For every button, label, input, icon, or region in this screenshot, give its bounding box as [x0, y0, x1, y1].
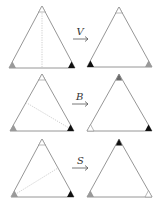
corner-marker-bottom-right-black: [67, 191, 74, 198]
row-b: B: [10, 74, 152, 131]
triangle-outline: [9, 6, 75, 68]
corner-marker-top-white: [39, 6, 45, 12]
corner-marker-bottom-right-black: [145, 125, 152, 132]
corner-marker-bottom-left-black: [87, 61, 94, 68]
operation-label-v: V: [77, 26, 86, 37]
corner-marker-bottom-right-white: [145, 191, 152, 198]
corner-marker-top-white: [39, 74, 45, 80]
triangle-outline: [87, 139, 152, 197]
triangle-outline: [87, 74, 152, 131]
corner-marker-bottom-right-gray: [145, 61, 152, 68]
triangle-outline: [87, 7, 152, 67]
corner-marker-bottom-left-gray: [87, 191, 94, 198]
triangle-before-s: [11, 139, 74, 197]
corner-marker-bottom-left-gray: [10, 125, 17, 132]
triangle-after-s: [87, 139, 152, 197]
row-s: S: [11, 139, 152, 197]
triangle-before-v: [9, 6, 75, 68]
triangle-before-b: [10, 74, 74, 131]
corner-marker-top-white: [39, 139, 45, 145]
triangle-after-b: [87, 74, 152, 131]
transform-arrow-b: B: [72, 91, 88, 107]
transform-arrow-v: V: [73, 26, 88, 42]
operation-label-s: S: [77, 155, 84, 166]
corner-marker-bottom-left-white: [87, 125, 94, 132]
triangle-outline: [10, 74, 74, 131]
transform-arrow-s: S: [72, 155, 88, 171]
row-v: V: [9, 6, 152, 68]
reflection-axis: [26, 103, 74, 132]
triangle-transformations-diagram: V B: [0, 0, 166, 204]
corner-marker-top-white: [116, 7, 122, 13]
reflection-axis: [11, 168, 58, 197]
corner-marker-bottom-right-black: [68, 62, 75, 69]
corner-marker-bottom-left-gray: [11, 191, 18, 198]
operation-label-b: B: [75, 91, 83, 102]
triangle-after-v: [87, 7, 152, 67]
corner-marker-bottom-left-gray: [9, 62, 16, 69]
triangle-outline: [11, 139, 74, 197]
